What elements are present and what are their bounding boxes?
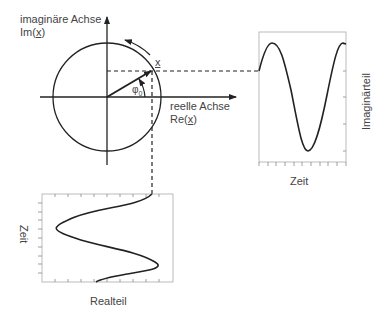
real-axis-label-line1: reelle Achse [170,100,230,113]
imag-axis-label: imaginäre Achse Im(x) [20,13,101,39]
im-suffix: ) [41,26,45,38]
phasor-diagram [0,0,388,321]
real-plot [38,194,173,282]
angle-label: φ0 [132,83,142,100]
imag-plot-x-label: Zeit [290,175,308,188]
imag-plot [259,32,346,166]
real-plot-y-label: Zeit [17,225,30,243]
angle-subscript: 0 [138,90,142,97]
phasor-label: x [155,56,161,69]
re-prefix: Re( [170,113,188,125]
real-plot-x-label: Realteil [90,295,127,308]
real-axis-label-line2: Re(x) [170,113,230,126]
imag-plot-y-label: Imaginärteil [360,73,373,130]
imag-axis-label-line2: Im(x) [20,26,101,39]
re-suffix: ) [193,113,197,125]
imag-sine-curve [259,43,346,151]
im-prefix: Im( [20,26,36,38]
real-cosine-curve [56,194,158,282]
real-axis-label: reelle Achse Re(x) [170,100,230,126]
imag-axis-label-line1: imaginäre Achse [20,13,101,26]
